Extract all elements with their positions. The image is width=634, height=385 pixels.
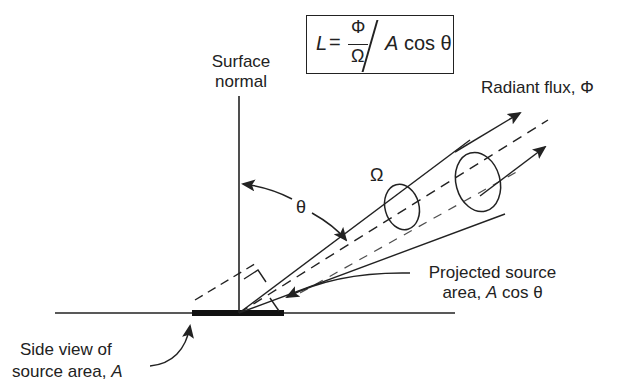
theta-label: θ (296, 197, 306, 217)
formula-equals: = (329, 31, 341, 54)
small-cross-section-ellipse (380, 180, 425, 233)
side-view-source-area-label: Side view of source area, A (12, 339, 123, 383)
formula-numerator: Φ (351, 17, 365, 38)
formula-fraction-bar (348, 44, 368, 45)
theta-arc-arrow-left (243, 184, 292, 199)
formula-denominator: Ω (351, 46, 364, 67)
surface-normal-label: Surface normal (196, 52, 286, 92)
solid-angle-label: Ω (370, 165, 383, 185)
source-area-bar (192, 310, 284, 316)
projected-source-area-label: Projected source area, A cos θ (410, 263, 575, 303)
radiant-flux-label: Radiant flux, Φ (481, 78, 594, 98)
flux-arrow-upper (455, 113, 520, 152)
projected-area-leader-arrow (287, 273, 410, 297)
projected-area-dashed-line (195, 262, 258, 300)
radiance-formula-box: L = Φ Ω A cos θ (306, 15, 454, 74)
formula-rhs: A cos θ (385, 32, 452, 55)
side-view-leader-arrow (150, 326, 190, 366)
right-angle-mark (244, 270, 266, 282)
flux-arrow-lower (480, 147, 545, 196)
formula-lhs: L (316, 32, 327, 55)
